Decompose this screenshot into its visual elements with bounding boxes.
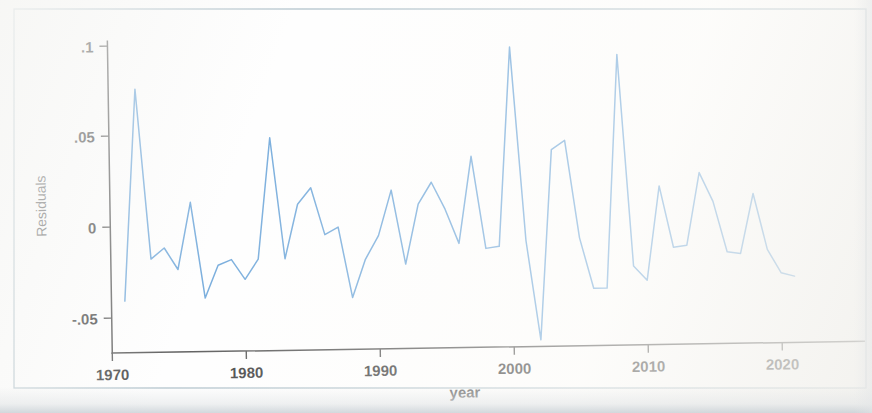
x-tick-label-1: 1980	[230, 364, 264, 382]
x-tick-label-0: 1970	[96, 366, 130, 384]
residuals-series-line	[121, 43, 796, 347]
x-tick-label-4: 2010	[632, 357, 666, 375]
y-tick-label-2: 0	[88, 219, 97, 236]
x-tick-label-2: 1990	[364, 362, 398, 380]
x-axis-title: year	[449, 383, 480, 400]
y-tick-label-1: .05	[74, 128, 95, 145]
x-tick-label-5: 2020	[766, 355, 800, 373]
y-tick-label-3: -.05	[72, 310, 98, 327]
x-axis-line	[112, 341, 864, 353]
chart-page: .1 .05 0 -.05 1970 1980 1990 2000 2010 2…	[0, 0, 872, 413]
x-tick-label-3: 2000	[498, 360, 532, 378]
y-axis-line	[107, 41, 112, 353]
y-axis-title: Residuals	[32, 175, 49, 237]
y-tick-label-0: .1	[81, 38, 94, 55]
residuals-vs-year-line-chart: .1 .05 0 -.05 1970 1980 1990 2000 2010 2…	[0, 0, 872, 413]
